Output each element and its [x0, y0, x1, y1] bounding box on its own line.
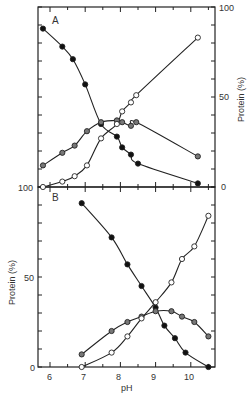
x-tick-9: 9: [151, 372, 156, 382]
marker-half-circle-icon: [128, 123, 133, 128]
axes-frames: [38, 7, 215, 367]
marker-open-circle-icon: [60, 179, 65, 184]
marker-filled-circle-icon: [120, 145, 125, 150]
x-tick-10: 10: [184, 372, 194, 382]
x-axis-label: pH: [121, 383, 133, 393]
marker-half-circle-icon: [84, 129, 89, 134]
marker-filled-circle-icon: [139, 283, 144, 288]
marker-open-circle-icon: [72, 174, 77, 179]
marker-filled-circle-icon: [135, 161, 140, 166]
curve-filled: [43, 29, 198, 184]
panel-label-a: A: [52, 15, 59, 26]
marker-open-circle-icon: [79, 364, 84, 369]
marker-filled-circle-icon: [70, 57, 75, 62]
marker-half-circle-icon: [109, 328, 114, 333]
panel-label-b: B: [52, 192, 59, 203]
x-tick-7: 7: [81, 372, 86, 382]
marker-filled-circle-icon: [128, 152, 133, 157]
marker-open-circle-icon: [206, 213, 211, 218]
marker-half-circle-icon: [120, 120, 125, 125]
a-right-tick-100: 100: [219, 3, 234, 13]
marker-filled-circle-icon: [172, 336, 177, 341]
marker-half-circle-icon: [192, 319, 197, 324]
marker-filled-circle-icon: [162, 323, 167, 328]
marker-half-circle-icon: [60, 150, 65, 155]
marker-open-circle-icon: [192, 244, 197, 249]
marker-half-circle-icon: [40, 163, 45, 168]
marker-open-circle-icon: [128, 100, 133, 105]
marker-filled-circle-icon: [79, 201, 84, 206]
curve-half: [82, 311, 209, 355]
marker-filled-circle-icon: [60, 44, 65, 49]
marker-open-circle-icon: [134, 93, 139, 98]
marker-open-circle-icon: [153, 300, 158, 305]
marker-half-circle-icon: [125, 319, 130, 324]
marker-half-circle-icon: [169, 309, 174, 314]
marker-open-circle-icon: [114, 121, 119, 126]
b-left-tick-0: 0: [30, 363, 35, 373]
marker-filled-circle-icon: [195, 181, 200, 186]
marker-half-circle-icon: [98, 120, 103, 125]
curve-filled: [82, 203, 209, 367]
marker-open-circle-icon: [125, 334, 130, 339]
marker-filled-circle-icon: [206, 364, 211, 369]
marker-open-circle-icon: [40, 184, 45, 189]
marker-open-circle-icon: [120, 109, 125, 114]
marker-half-circle-icon: [206, 334, 211, 339]
figure: A B 100 50 0 Protein (%) 100 50 0 Protei…: [0, 0, 248, 394]
panel-frame-b: [38, 187, 215, 367]
marker-open-circle-icon: [179, 256, 184, 261]
a-right-tick-0: 0: [221, 182, 226, 192]
panel-frame-a: [38, 7, 215, 187]
marker-half-circle-icon: [179, 314, 184, 319]
x-tick-6: 6: [47, 372, 52, 382]
marker-half-circle-icon: [153, 309, 158, 314]
a-ylabel: Protein (%): [236, 77, 246, 122]
x-tick-8: 8: [116, 372, 121, 382]
a-right-tick-50: 50: [219, 92, 229, 102]
b-left-tick-100: 100: [18, 183, 33, 193]
marker-half-circle-icon: [134, 120, 139, 125]
marker-open-circle-icon: [139, 316, 144, 321]
marker-open-circle-icon: [98, 136, 103, 141]
marker-filled-circle-icon: [40, 26, 45, 31]
marker-open-circle-icon: [169, 280, 174, 285]
marker-half-circle-icon: [195, 154, 200, 159]
marker-filled-circle-icon: [183, 350, 188, 355]
marker-open-circle-icon: [195, 35, 200, 40]
marker-open-circle-icon: [84, 163, 89, 168]
marker-half-circle-icon: [72, 143, 77, 148]
marker-filled-circle-icon: [83, 82, 88, 87]
b-ylabel: Protein (%): [7, 260, 17, 305]
marker-half-circle-icon: [79, 352, 84, 357]
marker-open-circle-icon: [109, 350, 114, 355]
marker-filled-circle-icon: [125, 262, 130, 267]
b-left-tick-50: 50: [24, 273, 34, 283]
marker-filled-circle-icon: [114, 134, 119, 139]
marker-filled-circle-icon: [109, 235, 114, 240]
